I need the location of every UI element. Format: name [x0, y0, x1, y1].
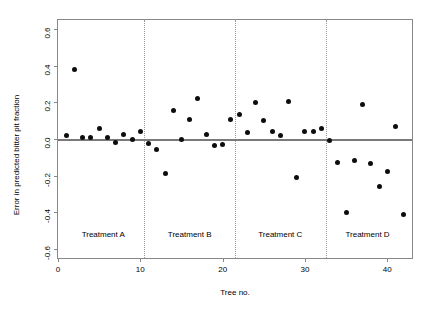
- y-axis-tick: [54, 212, 58, 213]
- x-axis-tick: [387, 258, 388, 262]
- x-axis-tick: [58, 258, 59, 262]
- data-point: [253, 100, 258, 105]
- data-point: [360, 102, 365, 107]
- y-axis-tick-label: -0.6: [44, 246, 52, 260]
- data-point: [237, 112, 242, 117]
- data-point: [179, 137, 184, 142]
- data-point: [97, 126, 102, 131]
- data-point: [286, 99, 291, 104]
- data-point: [335, 160, 340, 165]
- data-point: [311, 129, 316, 134]
- y-axis-tick: [54, 176, 58, 177]
- treatment-a-label: Treatment A: [82, 230, 125, 239]
- data-point: [64, 133, 69, 138]
- data-point: [302, 129, 307, 134]
- x-axis-tick: [140, 258, 141, 262]
- x-axis-tick-label: 30: [301, 265, 310, 274]
- x-axis-label: Tree no.: [57, 288, 413, 297]
- data-point: [130, 137, 135, 142]
- y-axis-label: Error in predicted bitter pit fraction: [12, 95, 21, 216]
- treatment-b-label: Treatment B: [168, 230, 212, 239]
- data-point: [187, 117, 192, 122]
- data-point: [278, 133, 283, 138]
- x-axis-tick: [305, 258, 306, 262]
- data-point: [245, 130, 250, 135]
- treatment-c-label: Treatment C: [258, 230, 302, 239]
- data-point: [228, 117, 233, 122]
- y-axis-tick-label: 0.2: [44, 101, 52, 112]
- data-point: [220, 142, 225, 147]
- data-point: [72, 67, 77, 72]
- y-axis-tick-label: 0.6: [44, 28, 52, 39]
- x-axis-tick: [223, 258, 224, 262]
- data-point: [105, 135, 110, 140]
- x-axis-tick-label: 40: [383, 265, 392, 274]
- data-point: [327, 138, 332, 143]
- y-axis-tick-label: -0.4: [44, 209, 52, 223]
- y-axis-tick: [54, 29, 58, 30]
- data-point: [154, 147, 159, 152]
- y-axis-tick-label: 0.4: [44, 64, 52, 75]
- data-point: [401, 212, 406, 217]
- data-point: [270, 129, 275, 134]
- x-axis-tick-label: 20: [218, 265, 227, 274]
- data-point: [344, 210, 349, 215]
- data-point: [163, 171, 168, 176]
- data-point: [368, 161, 373, 166]
- data-point: [212, 143, 217, 148]
- scatter-plot-figure: Error in predicted bitter pit fraction T…: [0, 0, 431, 310]
- y-axis-tick-label: -0.2: [44, 173, 52, 187]
- y-axis-tick: [54, 139, 58, 140]
- treatment-d-label: Treatment D: [345, 230, 389, 239]
- data-point: [377, 184, 382, 189]
- data-point: [352, 158, 357, 163]
- data-point: [80, 135, 85, 140]
- data-point: [113, 140, 118, 145]
- zero-line: [58, 139, 412, 141]
- y-axis-tick: [54, 66, 58, 67]
- data-point: [146, 141, 151, 146]
- data-point: [204, 132, 209, 137]
- y-axis-tick: [54, 102, 58, 103]
- data-point: [261, 118, 266, 123]
- y-axis-tick-label: 0.0: [44, 137, 52, 148]
- data-point: [195, 96, 200, 101]
- plot-frame: Treatment ATreatment BTreatment CTreatme…: [57, 19, 413, 259]
- plot-area: Treatment ATreatment BTreatment CTreatme…: [58, 20, 412, 258]
- data-point: [171, 108, 176, 113]
- data-point: [385, 169, 390, 174]
- data-point: [393, 124, 398, 129]
- data-point: [294, 175, 299, 180]
- data-point: [138, 129, 143, 134]
- data-point: [121, 132, 126, 137]
- data-point: [319, 126, 324, 131]
- y-axis-tick: [54, 249, 58, 250]
- x-axis-tick-label: 10: [136, 265, 145, 274]
- x-axis-tick-label: 0: [56, 265, 60, 274]
